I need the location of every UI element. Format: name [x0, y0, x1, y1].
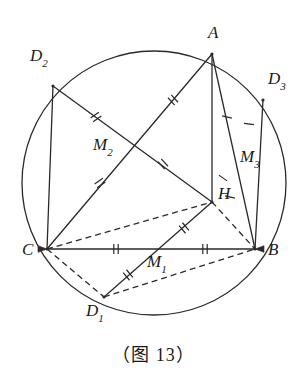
point-label-m1-subscript: 1	[161, 263, 167, 275]
segment-D2-M2-extend	[53, 86, 212, 202]
point-label-m3: M3	[240, 148, 260, 168]
circumcircle	[22, 51, 286, 315]
point-label-d1-letter: D	[86, 301, 98, 320]
point-label-C: C	[22, 241, 33, 258]
tick-AC-lower-mark-a	[158, 162, 165, 169]
tick-D2C-lower	[95, 178, 106, 187]
point-label-d3-letter: D	[268, 69, 280, 88]
point-label-m2: M2	[93, 136, 113, 156]
tick-D3B-lower-mark	[219, 175, 227, 181]
point-label-m1-letter: M	[147, 252, 161, 271]
vertex-dot-d3	[261, 98, 264, 101]
tick-AB-upper-mark	[222, 116, 232, 118]
tick-D3B-upper	[244, 123, 254, 124]
vertex-dot-a	[210, 52, 213, 55]
point-label-c-letter: C	[22, 240, 33, 259]
figure-caption: （图 13）	[0, 340, 307, 366]
point-label-m3-letter: M	[240, 147, 254, 166]
point-label-d2-subscript: 2	[42, 57, 48, 69]
vertex-dot-d1	[102, 295, 105, 298]
dashed-C-H	[47, 202, 212, 249]
point-label-d2-letter: D	[30, 46, 42, 65]
vertex-dot-d2	[51, 84, 54, 87]
point-label-d1: D1	[86, 302, 104, 322]
point-label-m2-letter: M	[93, 135, 107, 154]
point-label-d3-subscript: 3	[280, 80, 286, 92]
point-label-d2: D2	[30, 47, 48, 67]
tick-AC-lower	[158, 159, 168, 169]
tick-D2C-lower-mark-b	[97, 182, 105, 188]
point-label-b-letter: B	[268, 240, 278, 259]
geometry-figure: A B C H M1 M2 M3 D1 D2 D3 （图 13）	[0, 0, 307, 386]
tick-D3B-lower	[219, 175, 227, 181]
segment-D2-C	[47, 86, 53, 249]
point-label-d3: D3	[268, 70, 286, 90]
vertex-dot-b	[253, 247, 256, 250]
point-label-B: B	[268, 241, 278, 258]
tick-AB-upper	[222, 116, 232, 118]
vertex-dot-c	[45, 247, 48, 250]
point-label-m2-subscript: 2	[107, 146, 113, 158]
point-label-A: A	[208, 24, 218, 41]
segment-A-C	[47, 54, 212, 249]
point-label-m1: M1	[147, 253, 167, 273]
point-label-a-letter: A	[208, 23, 218, 42]
segment-D3-B	[255, 100, 263, 249]
point-label-d1-subscript: 1	[98, 312, 104, 324]
point-label-H: H	[218, 185, 230, 202]
vertex-dot-h	[210, 200, 213, 203]
point-label-h-letter: H	[218, 184, 230, 203]
tick-D2C-lower-mark-a	[95, 178, 103, 184]
point-label-m3-subscript: 3	[254, 158, 260, 170]
dashed-H-B	[212, 202, 255, 249]
tick-D3B-upper-mark	[244, 123, 254, 124]
